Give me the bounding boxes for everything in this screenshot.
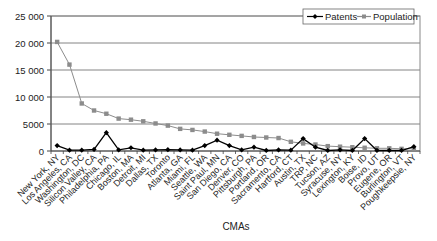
data-point — [276, 147, 281, 152]
data-point — [227, 143, 232, 148]
legend-label-patents: Patents — [325, 11, 357, 22]
data-point — [239, 134, 243, 138]
y-axis-ticks: 0500010 00015 00020 00025 000 — [15, 11, 51, 157]
y-tick-label: 0 — [39, 146, 44, 157]
data-point — [289, 140, 293, 144]
data-point — [203, 129, 207, 133]
data-point — [276, 136, 280, 140]
data-point — [264, 135, 268, 139]
data-point — [252, 135, 256, 139]
data-point — [202, 143, 207, 148]
y-tick-label: 25 000 — [15, 11, 44, 22]
data-point — [67, 148, 72, 153]
series-patents — [55, 130, 417, 153]
data-point — [251, 145, 256, 150]
data-point — [362, 146, 366, 150]
series-lines — [55, 40, 417, 153]
data-point — [80, 101, 84, 105]
data-point — [67, 62, 71, 66]
data-point — [128, 145, 133, 150]
x-axis-category-labels: New York, NYLos Angeles, CAWashington, D… — [15, 152, 418, 212]
legend: Patents Population — [303, 9, 418, 24]
y-tick-label: 5000 — [23, 119, 44, 130]
line-chart: 0500010 00015 00020 00025 000 New York, … — [0, 0, 437, 241]
data-point — [190, 148, 195, 153]
data-point — [326, 144, 330, 148]
data-point — [215, 132, 219, 136]
data-point — [239, 147, 244, 152]
data-point — [190, 128, 194, 132]
data-point — [214, 138, 219, 143]
legend-label-population: Population — [373, 11, 418, 22]
data-point — [129, 117, 133, 121]
data-point — [178, 147, 183, 152]
y-tick-label: 15 000 — [15, 65, 44, 76]
data-point — [227, 133, 231, 137]
data-point — [264, 148, 269, 153]
y-tick-label: 10 000 — [15, 92, 44, 103]
data-point — [55, 143, 60, 148]
x-axis-title: CMAs — [222, 221, 249, 232]
data-point — [79, 148, 84, 153]
data-point — [55, 40, 59, 44]
data-point — [104, 112, 108, 116]
data-point — [153, 121, 157, 125]
data-point — [92, 108, 96, 112]
gridlines — [51, 16, 420, 124]
series-population — [55, 40, 416, 151]
y-tick-label: 20 000 — [15, 38, 44, 49]
data-point — [153, 147, 158, 152]
data-point — [141, 148, 146, 153]
square-marker-icon — [362, 15, 366, 19]
data-point — [178, 127, 182, 131]
data-point — [325, 148, 330, 153]
data-point — [166, 123, 170, 127]
data-point — [141, 119, 145, 123]
data-point — [301, 141, 305, 145]
data-point — [116, 116, 120, 120]
